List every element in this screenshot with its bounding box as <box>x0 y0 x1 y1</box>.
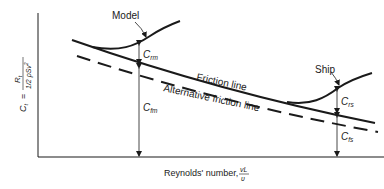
x-axis-label: Reynolds' number, <box>164 168 238 178</box>
diagram-canvas: Model Ship Friction line Alternative fri… <box>0 0 384 189</box>
crm-label: Crm <box>143 49 158 61</box>
ship-label: Ship <box>315 64 335 75</box>
model-curve <box>92 21 180 49</box>
ship-curve <box>287 73 372 103</box>
cfs-label: Cfs <box>341 131 354 143</box>
x-axis-frac-num: vL <box>240 166 248 173</box>
crs-label: Crs <box>341 96 354 108</box>
model-leader-arrow <box>135 22 146 37</box>
y-axis-label: Ct = Rt 1/2 ρSv2 <box>13 57 33 112</box>
model-label: Model <box>112 10 139 21</box>
x-axis-frac-den: υ <box>241 175 245 182</box>
svg-text:=: = <box>18 94 28 99</box>
svg-text:Ct: Ct <box>18 104 29 113</box>
svg-text:Rt: Rt <box>13 75 23 83</box>
svg-text:1/2 ρSv2: 1/2 ρSv2 <box>23 62 33 89</box>
cfm-label: Cfm <box>143 102 158 114</box>
